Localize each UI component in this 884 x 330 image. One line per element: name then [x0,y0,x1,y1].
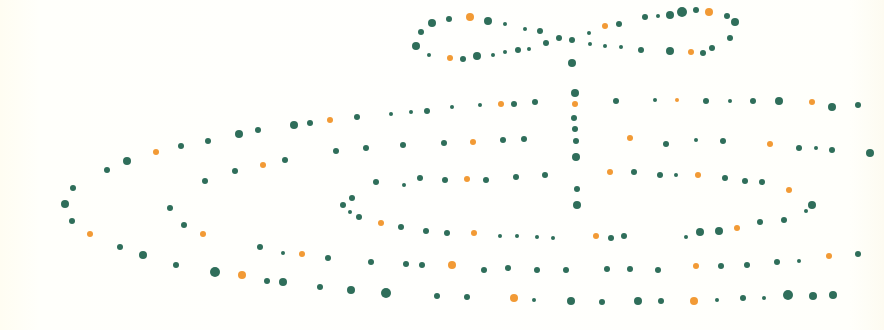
green-dot [264,278,270,284]
green-dot [542,172,548,178]
orange-dot [695,172,701,178]
orange-dot [688,49,694,55]
green-dot [573,138,579,144]
green-dot [441,140,447,146]
green-dot [693,7,699,13]
green-dot [750,98,756,104]
green-dot [829,291,837,299]
green-dot [556,35,562,41]
green-dot [491,53,495,57]
green-dot [417,175,423,181]
green-dot [523,27,527,31]
green-dot [104,167,110,173]
orange-dot [690,297,698,305]
green-dot [571,115,577,121]
green-dot [423,228,429,234]
green-dot [762,296,766,300]
green-dot [349,195,355,201]
green-dot [61,200,69,208]
green-dot [759,179,765,185]
green-dot [373,179,379,185]
green-dot [419,262,425,268]
green-dot [255,127,261,133]
orange-dot [675,98,679,102]
green-dot [464,294,470,300]
green-dot [511,101,517,107]
green-dot [599,299,605,305]
orange-dot [470,139,476,145]
green-dot [715,227,723,235]
green-dot [658,298,664,304]
green-dot [178,143,184,149]
green-dot [173,262,179,268]
green-dot [333,148,339,154]
green-dot [616,21,622,27]
green-dot [232,168,238,174]
green-dot [527,47,531,51]
green-dot [117,244,123,250]
green-dot [720,138,726,144]
orange-dot [471,230,477,236]
green-dot [571,89,579,97]
orange-dot [327,117,333,123]
green-dot [202,178,208,184]
green-dot [290,121,298,129]
green-dot [855,102,861,108]
green-dot [731,18,739,26]
green-dot [656,14,660,18]
green-dot [638,47,644,53]
green-dot [866,149,874,157]
green-dot [604,266,610,272]
green-dot [724,13,730,19]
green-dot [703,98,709,104]
green-dot [428,19,436,27]
orange-dot [593,233,599,239]
green-dot [210,267,220,277]
green-dot [804,209,808,213]
green-dot [412,42,420,50]
green-dot [757,219,763,225]
green-dot [444,230,450,236]
green-dot [631,169,637,175]
green-dot [696,228,704,236]
green-dot [684,235,688,239]
green-dot [674,173,678,177]
green-dot [543,40,549,46]
green-dot [727,35,733,41]
green-dot [513,174,519,180]
green-dot [402,183,406,187]
green-dot [442,177,448,183]
green-dot [123,157,131,165]
green-dot [354,114,360,120]
green-dot [70,185,76,191]
green-dot [829,147,835,153]
green-dot [418,29,424,35]
green-dot [498,234,502,238]
orange-dot [693,263,699,269]
green-dot [663,141,669,147]
green-dot [515,234,519,238]
green-dot [282,157,288,163]
orange-dot [705,8,713,16]
green-dot [481,267,487,273]
green-dot [532,298,536,302]
green-dot [567,297,575,305]
green-dot [573,201,581,209]
orange-dot [153,149,159,155]
orange-dot [238,271,246,279]
orange-dot [510,294,518,302]
green-dot [783,290,793,300]
orange-dot [260,162,266,168]
orange-dot [447,55,453,61]
green-dot [722,175,728,181]
green-dot [398,224,404,230]
green-dot [653,98,657,102]
green-dot [69,218,75,224]
green-dot [409,110,413,114]
orange-dot [786,187,792,193]
dot-pattern [0,0,884,330]
green-dot [603,44,607,48]
green-dot [400,142,406,148]
orange-dot [627,135,633,141]
green-dot [700,50,706,56]
